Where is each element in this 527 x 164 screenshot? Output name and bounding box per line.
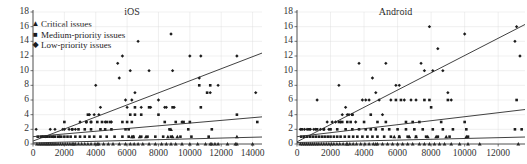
y-tick-label: 14 (267, 35, 293, 45)
y-tick-label: 6 (267, 94, 293, 104)
y-tick-label: 12 (267, 50, 293, 60)
y-tick-label: 8 (267, 79, 293, 89)
y-tick-label: 6 (3, 94, 29, 104)
y-tick-label: 2 (267, 123, 293, 133)
y-tick-label: 14 (3, 35, 29, 45)
y-tick-label: 18 (267, 6, 293, 16)
y-tick-label: 4 (267, 109, 293, 119)
chart-panel-android: Android 02468101214161802000400060008000… (264, 0, 527, 164)
y-tick-label: 16 (3, 21, 29, 31)
figure-root: iOS ▲ Critical issues ■ Medium-priority … (0, 0, 527, 164)
y-tick-label: 12 (3, 50, 29, 60)
plot-area-android (264, 0, 527, 164)
plot-area-ios (0, 0, 264, 164)
chart-panel-ios: iOS ▲ Critical issues ■ Medium-priority … (0, 0, 264, 164)
y-tick-label: 0 (3, 138, 29, 148)
x-tick-label: 12000 (474, 148, 522, 158)
y-tick-label: 10 (267, 65, 293, 75)
y-tick-label: 8 (3, 79, 29, 89)
y-tick-label: 16 (267, 21, 293, 31)
y-tick-label: 10 (3, 65, 29, 75)
y-tick-label: 4 (3, 109, 29, 119)
y-tick-label: 2 (3, 123, 29, 133)
y-tick-label: 0 (267, 138, 293, 148)
y-tick-label: 18 (3, 6, 29, 16)
